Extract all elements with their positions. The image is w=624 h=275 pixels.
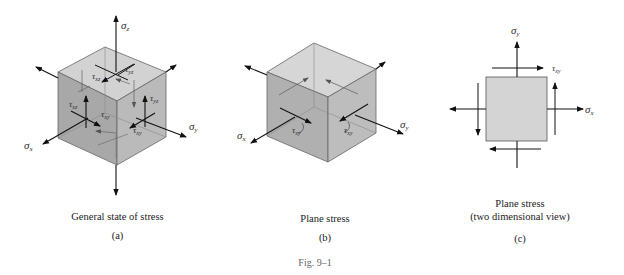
sublabel-a: (a) xyxy=(55,230,180,241)
label-tau-xy: τxy xyxy=(552,63,561,74)
label-sigma-x: σx xyxy=(24,139,33,153)
panel-c-plane-stress-2d: σy σx τxy xyxy=(450,24,594,168)
label-sigma-y: σy xyxy=(189,120,198,134)
caption-b: Plane stress xyxy=(280,213,370,224)
panel-b-plane-stress-cube: σx σy τxy τxy xyxy=(237,43,409,162)
caption-a: General state of stress xyxy=(55,211,180,222)
sublabel-b: (b) xyxy=(280,232,370,243)
caption-c-line2: (two dimensional view) xyxy=(460,211,580,222)
label-sigma-x: σx xyxy=(237,129,246,143)
label-sigma-x: σx xyxy=(585,103,594,117)
panel-a-general-stress-cube: σz σx σy τxz τyz τxz τxy τyz τxy xyxy=(24,16,198,195)
sublabel-c: (c) xyxy=(460,233,580,244)
caption-c-line1: Plane stress xyxy=(460,198,580,209)
label-sigma-y: σy xyxy=(400,118,409,132)
label-sigma-z: σz xyxy=(121,19,129,33)
figure-label: Fig. 9–1 xyxy=(290,257,340,268)
label-sigma-y: σy xyxy=(511,24,520,38)
stress-element-square xyxy=(486,77,547,141)
